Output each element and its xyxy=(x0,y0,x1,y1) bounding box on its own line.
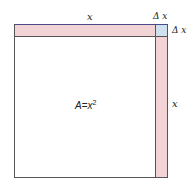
right-x-label: x xyxy=(172,99,178,109)
area-A: A xyxy=(75,100,82,111)
top-delta-x-label: Δ x xyxy=(153,11,167,21)
area-exponent: 2 xyxy=(93,99,97,106)
horizontal-divider xyxy=(14,36,167,37)
top-x-label: x xyxy=(87,12,93,22)
right-delta-x-label: Δ x xyxy=(172,25,186,35)
diagram-canvas: x Δ x Δ x x A=x2 xyxy=(0,0,195,186)
area-label: A=x2 xyxy=(75,98,96,111)
vertical-divider xyxy=(155,24,156,177)
